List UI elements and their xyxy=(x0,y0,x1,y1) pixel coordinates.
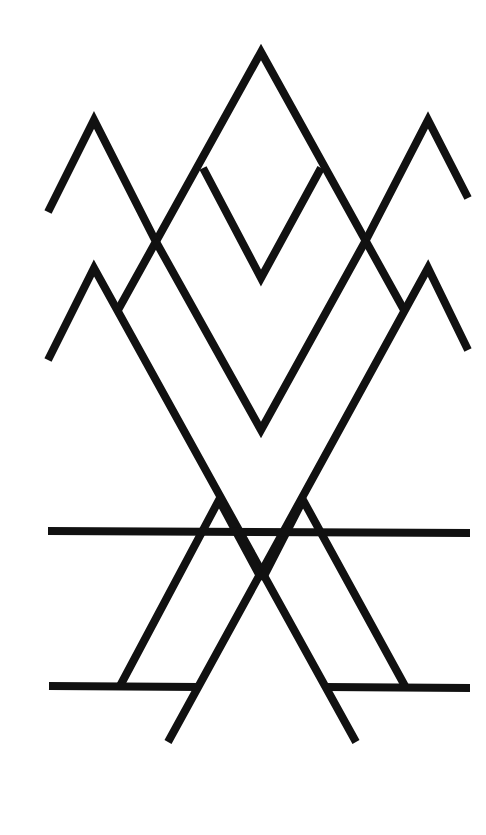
horizontal-lower-left-line xyxy=(49,686,200,687)
horizontal-lower-right-line xyxy=(326,687,470,688)
geometric-mountain-art xyxy=(0,0,486,835)
horizontal-upper-line xyxy=(48,531,470,533)
background xyxy=(0,0,486,835)
